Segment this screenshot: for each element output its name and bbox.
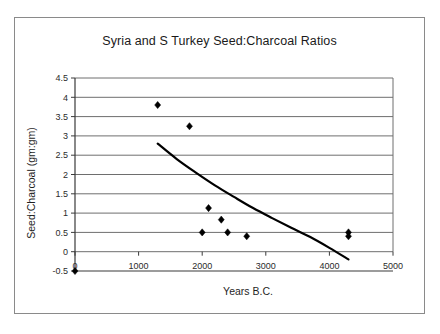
x-axis-tick-label: 3000 xyxy=(256,261,276,271)
data-point-marker xyxy=(218,216,224,223)
data-point-marker xyxy=(199,229,205,236)
y-axis-tick-label: 1 xyxy=(63,208,68,218)
data-point-marker xyxy=(155,101,161,108)
trend-line xyxy=(158,144,349,260)
x-axis-tick-label: 2000 xyxy=(192,261,212,271)
data-points-group xyxy=(72,101,351,274)
y-axis-tick-label: 1.5 xyxy=(55,189,68,199)
data-point-marker xyxy=(186,123,192,130)
data-point-marker xyxy=(225,229,231,236)
y-axis-tick-label: 0.5 xyxy=(55,228,68,238)
x-axis-title: Years B.C. xyxy=(223,285,273,297)
scatter-plot-canvas: 010002000300040005000 -0.500.511.522.533… xyxy=(15,18,426,315)
y-axis-tick-label: 0 xyxy=(63,247,68,257)
y-axis-tick-label: -0.5 xyxy=(52,266,68,276)
y-axis-tick-label: 3 xyxy=(63,131,68,141)
y-axis: -0.500.511.522.533.544.5 xyxy=(52,73,75,276)
trend-line-path xyxy=(158,144,349,260)
x-axis-tick-label: 5000 xyxy=(383,261,403,271)
y-axis-tick-label: 3.5 xyxy=(55,112,68,122)
x-axis: 010002000300040005000 xyxy=(72,252,403,271)
x-axis-tick-label: 1000 xyxy=(129,261,149,271)
data-point-marker xyxy=(206,204,212,211)
y-axis-tick-label: 2.5 xyxy=(55,150,68,160)
gridlines-group xyxy=(75,78,393,252)
y-axis-tick-label: 2 xyxy=(63,170,68,180)
x-axis-tick-label: 4000 xyxy=(319,261,339,271)
data-point-marker xyxy=(244,233,250,240)
y-axis-title: Seed:Charcoal (gm:gm) xyxy=(25,127,37,238)
chart-figure-frame: Syria and S Turkey Seed:Charcoal Ratios … xyxy=(14,17,425,314)
y-axis-tick-label: 4 xyxy=(63,93,68,103)
y-axis-tick-label: 4.5 xyxy=(55,73,68,83)
